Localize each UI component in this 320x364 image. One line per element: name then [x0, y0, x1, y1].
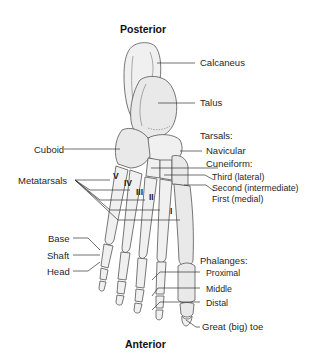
- phalanx-iii-proximal: [136, 258, 147, 288]
- cuneiform-header: Cuneiform:: [206, 158, 252, 169]
- cuneiform-first-label: First (medial): [212, 194, 263, 205]
- phalanx-iv-middle: [117, 281, 126, 294]
- posterior-label: Posterior: [120, 23, 166, 35]
- phalanx-iv-distal: [116, 295, 124, 305]
- phalanx-ii-distal: [156, 310, 163, 320]
- cuboid-bone: [115, 128, 150, 168]
- great-toe-label: Great (big) toe: [202, 321, 263, 332]
- phalanx-iv-proximal: [118, 252, 130, 280]
- phalanx-v-proximal: [101, 244, 113, 268]
- talus-label: Talus: [200, 97, 222, 108]
- cuneiform-first-bone: [172, 155, 188, 186]
- cuneiform-second-bone: [160, 160, 172, 180]
- metatarsal-numeral-ii: II: [149, 192, 154, 202]
- metatarsal-numeral-i: I: [170, 206, 172, 216]
- metatarsal-i: [174, 184, 193, 266]
- proximal-label: Proximal: [206, 268, 240, 279]
- metatarsal-ii: [157, 179, 172, 263]
- distal-label: Distal: [206, 298, 228, 309]
- phalanx-iii-distal: [134, 303, 142, 313]
- phalanx-v-distal: [99, 281, 106, 291]
- metatarsal-numeral-v: V: [113, 171, 119, 181]
- phalanx-i-proximal: [178, 263, 195, 303]
- calcaneus-label: Calcaneus: [200, 57, 245, 68]
- cuboid-label: Cuboid: [34, 144, 64, 155]
- anterior-label: Anterior: [125, 338, 166, 350]
- base-label: Base: [48, 233, 70, 244]
- phalanges-header: Phalanges:: [200, 255, 248, 266]
- metatarsal-numeral-iii: III: [136, 187, 143, 197]
- navicular-label: Navicular: [206, 145, 246, 156]
- metatarsals-label: Metatarsals: [18, 175, 67, 186]
- phalanx-v-middle: [100, 268, 108, 280]
- middle-label: Middle: [206, 284, 232, 295]
- head-label: Head: [47, 266, 70, 277]
- tarsals-header: Tarsals:: [200, 130, 233, 141]
- shaft-label: Shaft: [47, 250, 69, 261]
- phalanx-i-distal: [180, 303, 194, 318]
- metatarsal-numeral-iv: IV: [124, 178, 132, 188]
- talus-bone: [131, 76, 177, 138]
- phalanx-iii-middle: [135, 289, 144, 302]
- cuneiform-second-label: Second (intermediate): [212, 183, 299, 194]
- cuneiform-third-label: Third (lateral): [212, 172, 264, 183]
